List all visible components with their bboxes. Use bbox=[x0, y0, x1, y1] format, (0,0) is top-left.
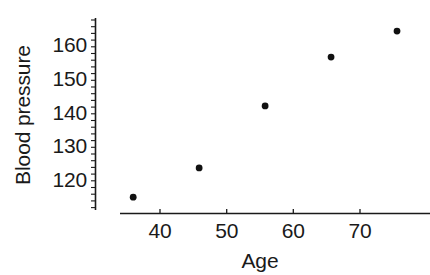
y-tick-label-160: 160 bbox=[53, 33, 87, 56]
x-tick-label-50: 50 bbox=[215, 219, 238, 242]
data-point bbox=[196, 164, 203, 171]
y-axis-title: Blood pressure bbox=[11, 45, 34, 185]
data-point bbox=[262, 103, 269, 110]
data-point bbox=[130, 194, 137, 201]
scatter-series bbox=[130, 28, 401, 201]
data-point bbox=[328, 54, 335, 61]
plot-canvas: 160 150 140 130 120 40 50 60 70 Blood pr… bbox=[0, 0, 430, 275]
y-tick-label-120: 120 bbox=[53, 168, 87, 191]
y-tick-label-130: 130 bbox=[53, 134, 87, 157]
y-tick-label-140: 140 bbox=[53, 101, 87, 124]
x-axis-title: Age bbox=[241, 249, 278, 272]
scatter-plot-figure: 160 150 140 130 120 40 50 60 70 Blood pr… bbox=[0, 0, 430, 275]
x-tick-label-40: 40 bbox=[149, 219, 172, 242]
x-axis-ticks bbox=[160, 209, 360, 213]
x-tick-label-60: 60 bbox=[282, 219, 305, 242]
x-tick-label-70: 70 bbox=[349, 219, 372, 242]
y-tick-label-150: 150 bbox=[53, 67, 87, 90]
data-point bbox=[394, 28, 401, 35]
y-axis-minor-ticks bbox=[91, 20, 95, 208]
